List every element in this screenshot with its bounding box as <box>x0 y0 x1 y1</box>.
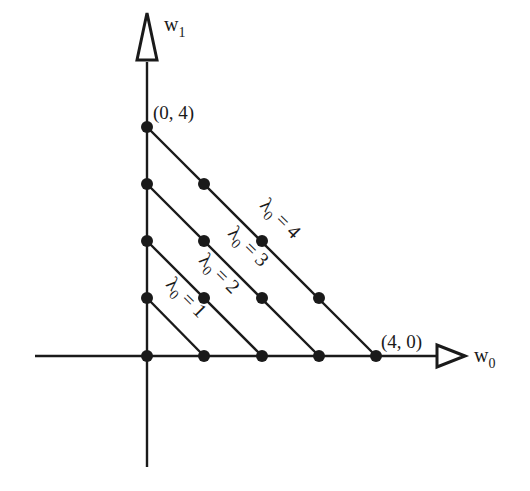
vertical-axis-arrow-icon <box>137 13 157 60</box>
horizontal-axis-label: w0 <box>474 344 495 371</box>
point-label-4-0: (4, 0) <box>381 331 422 353</box>
point-3-1 <box>313 292 325 304</box>
point-label-0-4: (0, 4) <box>153 102 194 124</box>
point-3-0 <box>313 350 325 362</box>
point-2-0 <box>256 350 268 362</box>
point-1-2 <box>198 235 210 247</box>
point-2-1 <box>256 292 268 304</box>
lattice-diagram: w1 w0 (0, 4) (4, 0) λ0 = 1 λ0 = 2 <box>0 0 530 491</box>
point-0-4 <box>141 121 153 133</box>
point-1-3 <box>198 178 210 190</box>
point-0-1 <box>141 292 153 304</box>
horizontal-axis-arrow-icon <box>437 345 465 367</box>
point-0-2 <box>141 235 153 247</box>
point-0-3 <box>141 178 153 190</box>
vertical-axis-label: w1 <box>164 13 185 40</box>
point-1-0 <box>198 350 210 362</box>
point-0-0 <box>141 350 153 362</box>
